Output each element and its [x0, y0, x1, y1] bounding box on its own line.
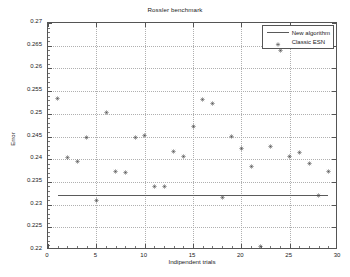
axis-minor-tick — [58, 246, 59, 248]
x-tick-label: 5 — [80, 252, 110, 258]
gridline-vertical — [193, 23, 194, 248]
legend-star-swatch — [266, 37, 290, 46]
axis-minor-tick — [48, 105, 50, 106]
axis-minor-tick — [48, 214, 50, 215]
axis-minor-tick — [48, 28, 50, 29]
axis-minor-tick — [48, 77, 50, 78]
axis-minor-tick — [48, 168, 50, 169]
new-algorithm-line — [58, 195, 329, 196]
axis-tick — [332, 227, 336, 228]
axis-minor-tick — [319, 246, 320, 248]
axis-minor-tick — [280, 246, 281, 248]
y-tick-label: 0.25 — [0, 109, 42, 115]
axis-minor-tick — [203, 246, 204, 248]
axis-minor-tick — [48, 64, 50, 65]
axis-tick — [332, 182, 336, 183]
axis-tick — [290, 244, 291, 248]
x-tick-label: 0 — [32, 252, 62, 258]
axis-minor-tick — [48, 218, 50, 219]
axis-minor-tick — [48, 164, 50, 165]
axis-tick — [332, 23, 336, 24]
data-point-marker — [200, 97, 205, 102]
axis-tick — [48, 205, 52, 206]
gridline-horizontal — [48, 205, 336, 206]
chart-legend[interactable]: New algorithm — [262, 25, 334, 49]
axis-minor-tick — [328, 246, 329, 248]
x-tick-label: 20 — [225, 252, 255, 258]
axis-tick — [48, 137, 52, 138]
axis-tick — [96, 23, 97, 27]
axis-tick — [48, 91, 52, 92]
x-tick-label: 25 — [274, 252, 304, 258]
star-marker-icon — [275, 33, 280, 51]
axis-tick — [332, 205, 336, 206]
gridline-vertical — [145, 23, 146, 248]
gridline-vertical — [241, 23, 242, 248]
axis-minor-tick — [232, 246, 233, 248]
axis-tick — [332, 137, 336, 138]
legend-label-new-algorithm: New algorithm — [290, 30, 330, 36]
gridline-horizontal — [48, 227, 336, 228]
gridline-horizontal — [48, 114, 336, 115]
axis-tick — [332, 91, 336, 92]
axis-minor-tick — [48, 50, 50, 51]
axis-minor-tick — [270, 246, 271, 248]
axis-minor-tick — [48, 155, 50, 156]
axis-minor-tick — [135, 246, 136, 248]
axis-minor-tick — [77, 246, 78, 248]
axis-tick — [241, 244, 242, 248]
data-point-marker — [326, 169, 331, 174]
y-tick-label: 0.27 — [0, 18, 42, 24]
x-tick-label: 15 — [177, 252, 207, 258]
axis-minor-tick — [48, 232, 50, 233]
axis-minor-tick — [48, 96, 50, 97]
axis-minor-tick — [48, 150, 50, 151]
y-tick-label: 0.23 — [0, 200, 42, 206]
axis-minor-tick — [48, 209, 50, 210]
gridline-horizontal — [48, 159, 336, 160]
data-point-marker — [171, 149, 176, 154]
legend-label-classic-esn: Classic ESN — [290, 39, 325, 45]
axis-minor-tick — [48, 200, 50, 201]
data-point-marker — [123, 170, 128, 175]
axis-minor-tick — [174, 246, 175, 248]
axis-minor-tick — [48, 41, 50, 42]
axis-minor-tick — [183, 246, 184, 248]
axis-minor-tick — [87, 246, 88, 248]
gridline-vertical — [290, 23, 291, 248]
axis-tick — [145, 244, 146, 248]
data-point-marker — [249, 164, 254, 169]
data-point-marker — [152, 184, 157, 189]
axis-minor-tick — [222, 246, 223, 248]
axis-tick — [48, 159, 52, 160]
axis-minor-tick — [48, 196, 50, 197]
axis-minor-tick — [48, 177, 50, 178]
x-axis-label: Indipendent trials — [47, 258, 337, 265]
axis-minor-tick — [48, 123, 50, 124]
axis-minor-tick — [261, 246, 262, 248]
y-tick-label: 0.255 — [0, 86, 42, 92]
axis-minor-tick — [48, 127, 50, 128]
axis-minor-tick — [48, 82, 50, 83]
y-tick-label: 0.225 — [0, 222, 42, 228]
axis-minor-tick — [48, 146, 50, 147]
axis-minor-tick — [116, 246, 117, 248]
data-point-marker — [210, 101, 215, 106]
gridline-horizontal — [48, 91, 336, 92]
data-point-marker — [307, 161, 312, 166]
data-point-marker — [55, 96, 60, 101]
gridline-horizontal — [48, 68, 336, 69]
axis-minor-tick — [106, 246, 107, 248]
axis-tick — [332, 68, 336, 69]
axis-minor-tick — [48, 59, 50, 60]
data-point-marker — [297, 150, 302, 155]
axis-minor-tick — [48, 141, 50, 142]
legend-item-classic-esn[interactable]: Classic ESN — [266, 37, 330, 46]
axis-minor-tick — [48, 37, 50, 38]
axis-minor-tick — [251, 246, 252, 248]
y-tick-label: 0.265 — [0, 41, 42, 47]
axis-minor-tick — [48, 100, 50, 101]
y-tick-label: 0.245 — [0, 132, 42, 138]
axis-minor-tick — [164, 246, 165, 248]
y-tick-label: 0.24 — [0, 154, 42, 160]
